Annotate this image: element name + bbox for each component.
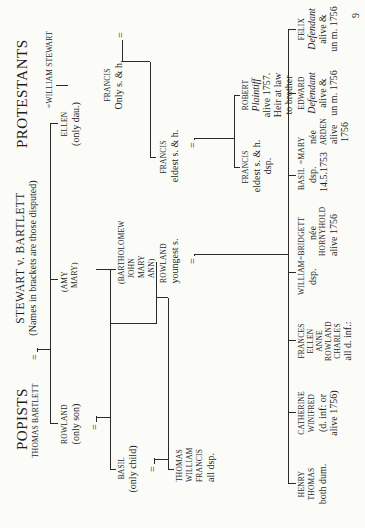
connector bbox=[234, 167, 240, 168]
connector bbox=[110, 469, 116, 470]
mary-year: 1756 bbox=[340, 122, 351, 142]
connector bbox=[288, 483, 296, 484]
francis-only-son-note: Only s. & h. bbox=[114, 48, 125, 122]
bridgett: =BRIDGETT bbox=[298, 217, 306, 260]
connector bbox=[150, 62, 151, 158]
bartholomew: (BARTHOLOMEW bbox=[118, 220, 126, 284]
mary-nee: née bbox=[308, 130, 319, 144]
both-dum: both dum. bbox=[318, 454, 329, 514]
edward: EDWARD bbox=[298, 66, 306, 120]
connector bbox=[194, 254, 288, 255]
connector bbox=[50, 123, 58, 124]
basil-date: 14.5.1753 bbox=[319, 152, 330, 192]
case-subtitle: (Names in brackets are those disputed) bbox=[28, 163, 39, 353]
rowland-inf: ROWLAND bbox=[325, 314, 333, 368]
ellen-note: (only dau.) bbox=[71, 98, 82, 150]
connector bbox=[168, 469, 174, 470]
connector bbox=[38, 349, 50, 350]
connector bbox=[288, 340, 296, 341]
rowland-only-son-note: (only son) bbox=[71, 398, 82, 450]
marriage-mark-rowland-youngest: = bbox=[188, 258, 198, 264]
mary: MARY) bbox=[71, 262, 79, 288]
basil-only-child: BASIL bbox=[118, 448, 126, 488]
connector bbox=[96, 417, 110, 418]
marriage-mark-rowland: = bbox=[90, 424, 100, 430]
all-dsp: all dsp. bbox=[206, 453, 217, 482]
william-dsp: WILLIAM bbox=[298, 260, 306, 295]
felix-unm: un m. 1756 bbox=[329, 0, 340, 62]
connector bbox=[234, 96, 235, 168]
connector bbox=[96, 269, 110, 270]
rowland-only-son: ROWLAND bbox=[61, 402, 69, 446]
all-d-inf: all d. inf.: bbox=[343, 310, 354, 372]
marriage-mark-francis-eldest: = bbox=[188, 142, 198, 148]
thomas-bartlett: THOMAS BARTLETT bbox=[32, 384, 40, 458]
connector bbox=[50, 124, 51, 424]
connector bbox=[110, 323, 156, 324]
anne: ANNE bbox=[316, 314, 324, 368]
connector bbox=[110, 269, 116, 270]
connector bbox=[156, 262, 157, 324]
rowland-youngest: ROWLAND bbox=[160, 238, 168, 288]
francis-eldest-note: eldest s. & h. bbox=[170, 116, 181, 196]
connector bbox=[288, 412, 296, 413]
connector bbox=[288, 30, 289, 484]
william-dsp-note: dsp. bbox=[308, 269, 319, 285]
genealogy-page: POPISTS THOMAS BARTLETT STEWART v. BARTL… bbox=[0, 0, 365, 528]
page-number: 9 bbox=[350, 13, 361, 18]
connector bbox=[122, 40, 123, 62]
rowland-youngest-note: youngest s. bbox=[170, 226, 181, 296]
thomas: THOMAS bbox=[176, 449, 184, 482]
mary-disputed: MARY bbox=[138, 255, 146, 278]
connector bbox=[150, 157, 156, 158]
connector bbox=[154, 459, 168, 460]
basil-dsp: BASIL bbox=[298, 167, 306, 190]
connector bbox=[50, 279, 58, 280]
connector bbox=[234, 95, 240, 96]
connector bbox=[156, 297, 168, 298]
marriage-mark-bartlett: = bbox=[30, 354, 40, 360]
connector bbox=[288, 175, 296, 176]
connector bbox=[288, 93, 296, 94]
robert: ROBERT bbox=[242, 70, 250, 120]
bridgett-alive: alive 1756 bbox=[329, 214, 340, 256]
francis-only-son: FRANCIS bbox=[104, 60, 112, 110]
basil-only-child-note: (only child) bbox=[128, 438, 139, 500]
amy: (AMY bbox=[61, 271, 69, 292]
marriage-mark-francis: = bbox=[116, 32, 126, 38]
charles: CHARLES bbox=[334, 314, 342, 368]
william: WILLIAM bbox=[186, 447, 194, 482]
hornyhold: HORNYHOLD bbox=[319, 207, 327, 256]
ellen-inf: ELLEN bbox=[307, 314, 315, 368]
connector bbox=[168, 298, 169, 470]
connector bbox=[288, 272, 296, 273]
connector bbox=[110, 270, 111, 470]
connector bbox=[194, 138, 234, 139]
popists-heading: POPISTS bbox=[14, 388, 30, 450]
henry: HENRY bbox=[298, 458, 306, 510]
winifred: WINIFRED bbox=[308, 382, 316, 444]
mary-arden: =MARY bbox=[298, 137, 306, 164]
connector bbox=[288, 29, 296, 30]
catherine: CATHERINE bbox=[298, 382, 306, 444]
robert-brother: to brother bbox=[284, 58, 295, 132]
felix: FELIX bbox=[298, 2, 306, 56]
thomas-dum: THOMAS bbox=[308, 458, 316, 510]
connector bbox=[56, 85, 68, 86]
connector bbox=[122, 61, 150, 62]
case-title: STEWART v. BARTLETT bbox=[14, 183, 26, 333]
francis: FRANCIS bbox=[196, 449, 204, 482]
connector bbox=[50, 423, 58, 424]
protestants-heading: PROTESTANTS bbox=[14, 40, 30, 148]
john: JOHN bbox=[128, 258, 136, 278]
william-stewart: =WILLIAM STEWART bbox=[46, 31, 54, 108]
frances: FRANCES bbox=[298, 314, 306, 368]
marriage-mark-basil: = bbox=[148, 466, 158, 472]
francis-dsp: FRANCIS bbox=[242, 142, 250, 192]
catherine-note2: alive 1756) bbox=[329, 378, 340, 448]
francis-dsp-note2: dsp. bbox=[263, 126, 274, 206]
ann: ANN) bbox=[148, 258, 156, 278]
francis-eldest: FRANCIS bbox=[160, 132, 168, 182]
edward-unm: un m. 1756 bbox=[329, 60, 340, 126]
ellen: ELLEN bbox=[61, 102, 69, 146]
